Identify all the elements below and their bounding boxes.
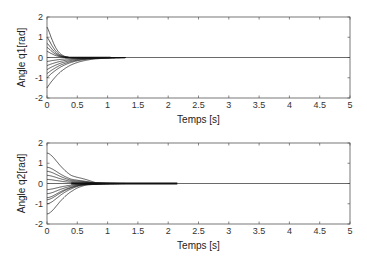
x-tick-label: 4 [287,100,292,110]
trajectory-line [47,58,125,88]
x-axis-label: Temps [s] [177,114,220,125]
y-tick-label: -1 [35,199,43,209]
x-tick-label: 5 [347,100,352,110]
x-tick-label: 2 [166,100,171,110]
x-tick-label: 3.5 [253,100,266,110]
x-tick-label: 3 [226,226,231,236]
x-axis-label: Temps [s] [177,240,220,251]
trajectory-line [47,153,125,183]
x-tick-label: 4 [287,226,292,236]
y-tick-label: 2 [38,12,43,22]
y-axis-label: Angle q2[rad] [16,154,27,214]
subplot-2: 00.511.522.533.544.55-2-1012Temps [s]Ang… [16,138,353,251]
x-tick-label: 5 [347,226,352,236]
x-tick-label: 0 [44,226,49,236]
y-tick-label: 0 [38,179,43,189]
y-tick-label: -2 [35,93,43,103]
trajectory-line [47,184,125,198]
chart-canvas: 00.511.522.533.544.55-2-1012Temps [s]Ang… [0,0,367,263]
y-tick-label: 0 [38,53,43,63]
trajectory-line [47,27,125,58]
y-tick-label: -1 [35,73,43,83]
trajectory-line [47,58,125,78]
trajectory-line [47,184,125,214]
x-tick-label: 4.5 [313,226,326,236]
x-tick-label: 4.5 [313,100,326,110]
x-tick-label: 0 [44,100,49,110]
x-tick-label: 0.5 [71,100,84,110]
y-axis-label: Angle q1[rad] [16,28,27,88]
x-tick-label: 1 [105,100,110,110]
subplot-1: 00.511.522.533.544.55-2-1012Temps [s]Ang… [16,12,353,125]
x-tick-label: 1.5 [132,100,145,110]
x-tick-label: 1.5 [132,226,145,236]
y-tick-label: 1 [38,158,43,168]
trajectory-line [47,184,125,200]
y-tick-label: 2 [38,138,43,148]
x-tick-label: 3.5 [253,226,266,236]
x-tick-label: 1 [105,226,110,236]
x-tick-label: 0.5 [71,226,84,236]
y-tick-label: 1 [38,32,43,42]
x-tick-label: 2.5 [192,226,205,236]
y-tick-label: -2 [35,219,43,229]
x-tick-label: 2.5 [192,100,205,110]
x-tick-label: 2 [166,226,171,236]
x-tick-label: 3 [226,100,231,110]
